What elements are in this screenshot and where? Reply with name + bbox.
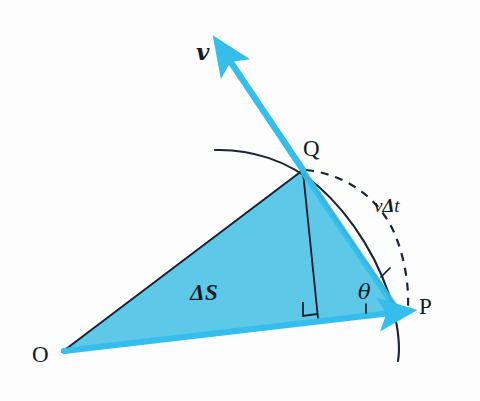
point-p-label: P: [419, 295, 432, 318]
point-q-label: Q: [303, 137, 320, 160]
point-o-label: O: [32, 343, 49, 366]
velocity-vector-arrow: [228, 58, 303, 170]
displacement-label-t: t: [394, 195, 399, 216]
swept-area-label: ΔS: [190, 281, 218, 304]
diagram-canvas: [0, 0, 480, 401]
displacement-label-delta: Δ: [382, 195, 394, 216]
velocity-vector-label: v: [196, 40, 209, 63]
swept-area-triangle: [62, 170, 400, 352]
angle-tick-upper: [381, 268, 390, 277]
displacement-label: vΔt: [374, 196, 400, 215]
angle-theta-label: θ: [358, 282, 371, 303]
physics-diagram-figure: v Q P O ΔS vΔt θ: [0, 0, 480, 401]
